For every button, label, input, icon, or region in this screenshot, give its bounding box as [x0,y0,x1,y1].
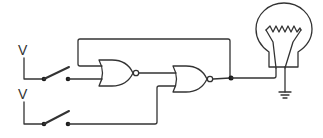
switch-2-blade[interactable] [44,111,69,124]
circuit-diagram: V V [0,0,323,138]
lamp-bulb-outline [256,3,312,67]
ground-icon [279,67,291,98]
nor-gate-1 [99,60,139,86]
nor-gate-2-bubble [207,76,212,81]
switch-1-blade[interactable] [44,67,69,79]
lamp-filament [266,26,301,32]
nor2-output-wire [213,78,230,79]
input-2: V [18,86,175,126]
input-1-wire [24,58,44,79]
feedback-wire [78,39,230,78]
lamp [256,3,312,68]
ground-symbol [279,92,291,98]
nor-gate-1-body [99,60,133,86]
nor-gate-1-bubble [133,70,138,75]
output-to-lamp-wire [231,68,276,78]
nor-gate-2-body [173,66,207,92]
input-2-wire [24,102,44,124]
lamp-lead-left [266,30,276,68]
input-1: V [18,42,102,81]
switch-2-to-nor2-wire [68,86,175,124]
voltage-label-1: V [18,42,28,58]
nor-gate-2 [173,66,213,92]
voltage-label-2: V [18,86,28,102]
